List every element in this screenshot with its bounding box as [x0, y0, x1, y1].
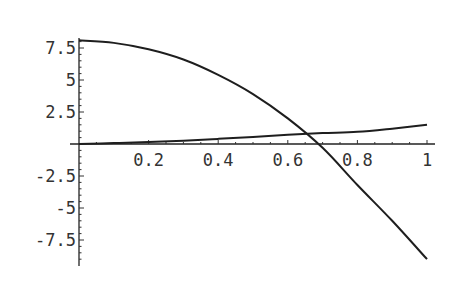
y-tick-label: -7.5 — [35, 230, 76, 250]
y-axis: 7.552.5-2.5-5-7.5 — [35, 38, 84, 266]
x-tick-label: 0.2 — [133, 150, 164, 170]
y-tick-label: -5 — [56, 198, 76, 218]
y-tick-label: 2.5 — [45, 102, 76, 122]
y-tick-label: 7.5 — [45, 38, 76, 58]
x-tick-label: 0.6 — [272, 150, 303, 170]
x-axis: 0.20.40.60.81 — [70, 140, 435, 170]
x-tick-label: 0.8 — [342, 150, 373, 170]
plot-curves — [79, 40, 427, 259]
y-tick-label: -2.5 — [35, 166, 76, 186]
line-chart: 0.20.40.60.81 7.552.5-2.5-5-7.5 — [0, 0, 452, 286]
x-tick-label: 0.4 — [203, 150, 234, 170]
decreasing-curve — [79, 40, 427, 259]
y-tick-label: 5 — [66, 70, 76, 90]
increasing-curve — [79, 125, 427, 144]
x-tick-label: 1 — [422, 150, 432, 170]
